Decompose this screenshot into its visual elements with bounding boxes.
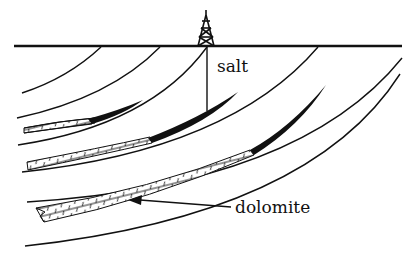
strata-lines [17,47,402,246]
salt-label: salt [217,58,248,75]
upper-salt-lens [88,100,143,124]
cross-section-diagram: salt dolomite [0,0,414,257]
dolomite-arrow [128,195,231,207]
diagram-drawing [0,0,414,257]
middle-salt-lens [148,92,238,143]
derrick-icon [198,10,214,46]
upper-salt-dolomite-bed [24,100,143,133]
middle-dolomite-bed [27,137,152,170]
dolomite-label: dolomite [235,199,310,216]
